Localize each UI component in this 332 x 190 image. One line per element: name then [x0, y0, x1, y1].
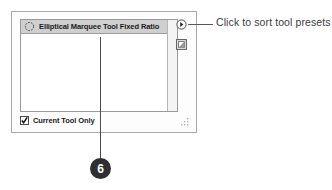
- tool-presets-panel: Elliptical Marquee Tool Fixed Ratio Curr…: [11, 11, 197, 133]
- tool-preset-label: Elliptical Marquee Tool Fixed Ratio: [39, 23, 159, 31]
- resize-grip-icon[interactable]: [181, 118, 190, 127]
- callout-badge: 6: [90, 158, 111, 179]
- tool-preset-list-body[interactable]: Elliptical Marquee Tool Fixed Ratio: [21, 20, 168, 111]
- current-tool-only-label: Current Tool Only: [33, 117, 95, 125]
- new-tool-preset-button[interactable]: [176, 39, 187, 50]
- panel-menu-button[interactable]: [176, 19, 187, 30]
- annotation-leader-line: [188, 24, 213, 25]
- elliptical-marquee-icon: [24, 21, 35, 32]
- checkbox-checked-icon[interactable]: [20, 116, 29, 125]
- tool-presets-panel-inner: Elliptical Marquee Tool Fixed Ratio Curr…: [15, 15, 193, 129]
- list-item[interactable]: Elliptical Marquee Tool Fixed Ratio: [21, 20, 167, 34]
- annotation-label: Click to sort tool presets: [216, 17, 331, 28]
- tool-preset-list[interactable]: Elliptical Marquee Tool Fixed Ratio: [20, 19, 178, 112]
- callout-leader-line: [100, 37, 101, 161]
- list-scrollbar[interactable]: [168, 20, 177, 111]
- current-tool-only-row[interactable]: Current Tool Only: [20, 116, 95, 125]
